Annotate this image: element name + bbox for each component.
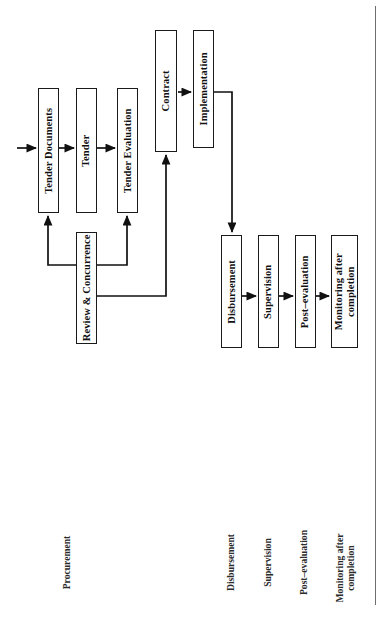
category-label-text: Monitoring after completion — [334, 508, 356, 628]
edge-implementation-to-disbursement — [214, 92, 232, 232]
node-label: Tender Documents — [43, 108, 55, 194]
node-implementation[interactable]: Implementation — [193, 30, 214, 148]
node-label: Disbursement — [226, 260, 238, 324]
diagram-canvas: Tender DocumentsTenderTender EvaluationR… — [0, 0, 390, 631]
node-label: Supervision — [263, 264, 275, 318]
node-tender[interactable]: Tender — [76, 88, 97, 213]
node-monitoring-completion[interactable]: Monitoring after completion — [331, 235, 358, 348]
node-tender-evaluation[interactable]: Tender Evaluation — [117, 88, 138, 213]
node-tender-documents[interactable]: Tender Documents — [38, 88, 59, 213]
node-supervision[interactable]: Supervision — [258, 235, 279, 348]
edge-review-to-evaluation — [97, 216, 127, 265]
node-label: Tender — [81, 134, 93, 166]
node-review-concurrence[interactable]: Review & Concurrence — [76, 232, 97, 344]
node-contract[interactable]: Contract — [155, 30, 177, 152]
category-label-text: Procurement — [61, 503, 72, 623]
node-label: Monitoring after completion — [333, 253, 357, 330]
node-post-evaluation[interactable]: Post–evaluation — [295, 235, 316, 348]
node-label: Implementation — [198, 52, 210, 125]
category-label-procurement: Procurement — [7, 557, 127, 568]
right-margin-rule — [375, 6, 376, 605]
node-label: Review & Concurrence — [81, 235, 93, 342]
node-label: Post–evaluation — [300, 255, 312, 328]
edge-review-to-documents — [48, 216, 76, 265]
node-label: Contract — [160, 70, 172, 111]
node-label: Tender Evaluation — [122, 108, 134, 193]
node-disbursement[interactable]: Disbursement — [221, 235, 242, 348]
